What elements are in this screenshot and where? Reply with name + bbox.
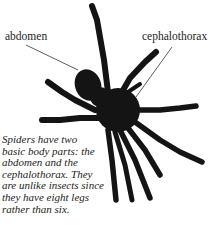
- caption: Spiders have two basic body parts: the a…: [2, 134, 106, 215]
- caption-line: Spiders have two: [2, 134, 106, 146]
- caption-line: rather than six.: [2, 204, 106, 216]
- abdomen-leader-line: [26, 45, 78, 70]
- caption-line: they have eight legs: [2, 192, 106, 204]
- cephalothorax-label: cephalothorax: [142, 30, 207, 42]
- abdomen-label: abdomen: [5, 30, 47, 42]
